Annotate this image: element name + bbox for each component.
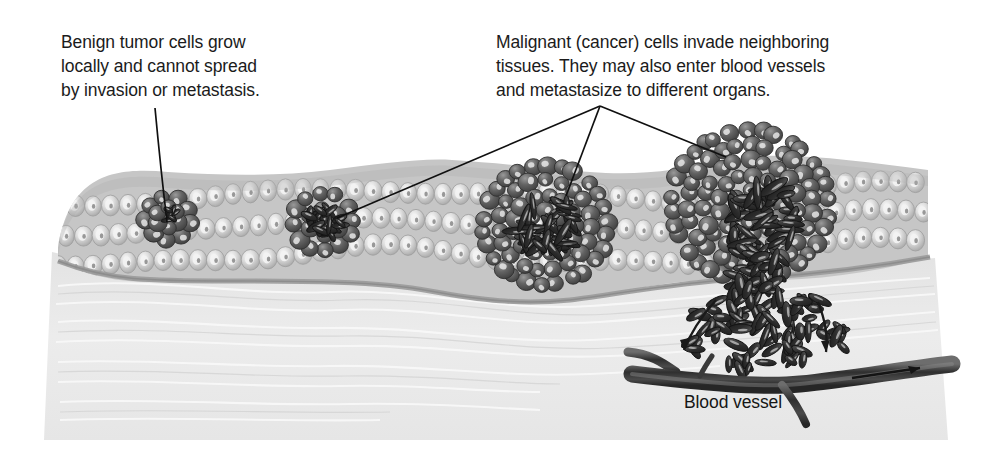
benign-leader-line (155, 108, 167, 222)
label-blood-vessel: Blood vessel (684, 392, 782, 413)
malignant-leader-line-middle (566, 106, 600, 196)
caption-benign-tumor: Benign tumor cells grow locally and cann… (61, 30, 361, 102)
malignant-leader-line-right (600, 106, 726, 157)
malignant-leader-line-left (337, 106, 600, 218)
caption-malignant-tumor: Malignant (cancer) cells invade neighbor… (496, 30, 936, 102)
tumor-metastasis-figure: Benign tumor cells grow locally and cann… (0, 0, 983, 460)
